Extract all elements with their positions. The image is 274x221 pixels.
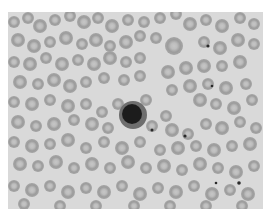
red-blood-cell xyxy=(134,30,146,42)
red-blood-cell xyxy=(116,180,128,192)
red-blood-cell xyxy=(44,138,56,150)
red-blood-cell xyxy=(224,184,236,196)
red-blood-cell xyxy=(140,162,152,174)
red-blood-cell xyxy=(234,12,246,24)
red-blood-cell xyxy=(63,79,77,93)
red-blood-cell xyxy=(161,65,175,79)
red-blood-cell xyxy=(250,122,262,134)
red-blood-cell xyxy=(80,76,92,88)
red-blood-cell xyxy=(33,19,47,33)
red-blood-cell xyxy=(183,17,197,31)
red-blood-cell xyxy=(61,185,75,199)
red-blood-cell xyxy=(59,31,73,45)
red-blood-cell xyxy=(72,54,84,66)
red-blood-cell xyxy=(119,35,133,49)
red-blood-cell xyxy=(76,38,88,50)
red-blood-cell xyxy=(11,33,25,47)
red-blood-cell xyxy=(241,187,255,201)
red-blood-cell xyxy=(226,140,238,152)
platelet xyxy=(183,134,186,137)
red-blood-cell xyxy=(47,73,61,87)
red-blood-cell xyxy=(44,180,56,192)
blood-smear-micrograph xyxy=(8,12,263,209)
red-blood-cell xyxy=(120,56,132,68)
red-blood-cell xyxy=(13,75,27,89)
red-blood-cell xyxy=(61,99,75,113)
red-blood-cell xyxy=(121,155,135,169)
red-blood-cell xyxy=(212,162,224,174)
red-blood-cell xyxy=(85,157,99,171)
red-blood-cell xyxy=(118,74,130,86)
platelet xyxy=(211,85,214,88)
red-blood-cell xyxy=(134,52,146,64)
platelet xyxy=(237,181,241,185)
red-blood-cell xyxy=(87,57,101,71)
red-blood-cell xyxy=(40,52,52,64)
red-blood-cell xyxy=(240,78,252,90)
red-blood-cell xyxy=(157,159,171,173)
red-blood-cell xyxy=(188,180,200,192)
red-blood-cell xyxy=(233,55,247,69)
red-blood-cell xyxy=(85,117,99,131)
image-caption: Grayscale micrograph of a peripheral blo… xyxy=(0,0,1,1)
red-blood-cell xyxy=(25,183,39,197)
nucleus xyxy=(122,104,142,124)
red-blood-cell xyxy=(207,143,221,157)
red-blood-cell xyxy=(8,96,20,108)
red-blood-cell xyxy=(98,136,110,148)
red-blood-cell xyxy=(8,56,20,68)
red-blood-cell xyxy=(197,59,211,73)
red-blood-cell xyxy=(248,160,260,172)
red-blood-cell xyxy=(133,187,147,201)
red-blood-cell xyxy=(77,15,91,29)
red-blood-cell xyxy=(215,19,229,33)
red-blood-cell xyxy=(165,37,183,55)
red-blood-cell xyxy=(210,98,222,110)
red-blood-cell xyxy=(122,14,134,26)
red-blood-cell xyxy=(193,93,207,107)
red-blood-cell xyxy=(213,41,227,55)
red-blood-cell xyxy=(27,39,41,53)
red-blood-cell xyxy=(80,98,92,110)
red-blood-cell xyxy=(179,61,193,75)
red-blood-cell xyxy=(92,12,104,24)
red-blood-cell xyxy=(150,32,162,44)
red-blood-cell xyxy=(154,12,166,24)
red-blood-cell xyxy=(190,140,202,152)
red-blood-cell xyxy=(193,157,207,171)
red-blood-cell xyxy=(96,106,108,118)
red-blood-cell xyxy=(105,19,119,33)
red-blood-cell xyxy=(13,157,27,171)
red-blood-cell xyxy=(44,94,56,106)
red-blood-cell xyxy=(182,128,194,140)
red-blood-cell xyxy=(89,33,103,47)
platelet xyxy=(215,182,218,185)
red-blood-cell xyxy=(32,78,44,90)
red-blood-cell xyxy=(231,33,245,47)
red-blood-cell xyxy=(166,84,178,96)
red-blood-cell xyxy=(202,78,214,90)
red-blood-cell xyxy=(80,182,92,194)
red-blood-cell xyxy=(8,180,20,192)
red-blood-cell xyxy=(8,136,20,148)
red-blood-cell xyxy=(103,51,117,65)
red-blood-cell xyxy=(246,94,258,106)
red-blood-cell xyxy=(97,185,111,199)
red-blood-cell xyxy=(152,182,164,194)
red-blood-cell xyxy=(134,136,146,148)
red-blood-cell xyxy=(11,115,25,129)
red-blood-cell xyxy=(55,57,69,71)
red-blood-cell xyxy=(171,141,185,155)
red-blood-cell xyxy=(32,160,44,172)
red-blood-cell xyxy=(8,16,20,28)
red-blood-cell xyxy=(248,18,260,30)
red-blood-cell xyxy=(25,139,39,153)
red-blood-cell xyxy=(200,118,212,130)
red-blood-cell xyxy=(176,164,188,176)
red-blood-cell xyxy=(234,116,246,128)
red-blood-cell xyxy=(61,133,75,147)
red-blood-cell xyxy=(183,79,197,93)
red-blood-cell xyxy=(104,162,116,174)
red-blood-cell xyxy=(23,57,37,71)
red-blood-cell xyxy=(49,155,63,169)
